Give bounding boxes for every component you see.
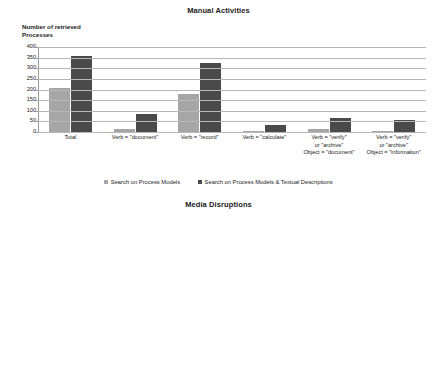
- y-axis-tick-mark: [36, 121, 38, 122]
- bar: [330, 118, 351, 132]
- bar: [265, 125, 286, 132]
- plot-area-top: 050100150200250300350400: [38, 47, 426, 132]
- gridline: [38, 111, 426, 112]
- y-axis-tick-label: 350: [27, 55, 36, 61]
- chart-title-top: Manual Activities: [0, 0, 437, 15]
- x-axis-label: Verb = "calculate": [232, 134, 297, 157]
- chart-title-bottom: Media Disruptions: [0, 196, 437, 209]
- gridline: [38, 47, 426, 48]
- y-axis-tick-label: 250: [27, 76, 36, 82]
- y-axis-tick-mark: [36, 132, 38, 133]
- y-axis-tick-mark: [36, 100, 38, 101]
- legend-label: Search on Process Models & Textual Descr…: [205, 179, 333, 185]
- gridline: [38, 68, 426, 69]
- legend-swatch-icon: [104, 180, 108, 184]
- gridline: [38, 121, 426, 122]
- gridline: [38, 79, 426, 80]
- legend-item[interactable]: Search on Process Models & Textual Descr…: [198, 179, 333, 185]
- bar: [136, 114, 157, 132]
- x-axis-label: Total: [38, 134, 103, 157]
- y-axis-tick-label: 200: [27, 87, 36, 93]
- x-axis-labels-top: TotalVerb = "document"Verb = "record"Ver…: [38, 134, 426, 157]
- x-axis-label: Verb = "verify" or "archive" Object = "d…: [297, 134, 362, 157]
- x-axis-label: Verb = "record": [167, 134, 232, 157]
- gridline: [38, 90, 426, 91]
- legend-swatch-icon: [198, 180, 202, 184]
- y-axis-tick-mark: [36, 58, 38, 59]
- figure-page: Manual Activities Number of retrieved Pr…: [0, 0, 437, 391]
- gridline: [38, 100, 426, 101]
- y-axis-tick-label: 100: [27, 108, 36, 114]
- y-axis-tick-label: 150: [27, 97, 36, 103]
- gridline: [38, 132, 426, 133]
- y-axis-tick-label: 300: [27, 65, 36, 71]
- y-axis-tick-mark: [36, 111, 38, 112]
- x-axis-label: Verb = "verify" or "archive" Object = "i…: [361, 134, 426, 157]
- y-axis-tick-label: 400: [27, 44, 36, 50]
- legend-item[interactable]: Search on Process Models: [104, 179, 180, 185]
- chart-manual-activities: Manual Activities Number of retrieved Pr…: [0, 0, 437, 196]
- legend-top: Search on Process ModelsSearch on Proces…: [0, 179, 437, 185]
- chart-media-disruptions: Media Disruptions Number of retrieved Pr…: [0, 196, 437, 391]
- legend-label: Search on Process Models: [111, 179, 180, 185]
- y-axis-caption-top: Number of retrieved Processes: [22, 23, 81, 39]
- y-axis-tick-mark: [36, 68, 38, 69]
- gridline: [38, 58, 426, 59]
- y-axis-tick-mark: [36, 90, 38, 91]
- x-axis-label: Verb = "document": [103, 134, 168, 157]
- y-axis-tick-mark: [36, 79, 38, 80]
- y-axis-tick-mark: [36, 47, 38, 48]
